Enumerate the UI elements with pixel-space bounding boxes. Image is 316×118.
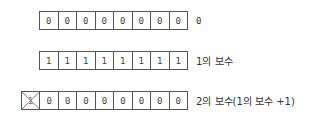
row-zero: 0 0 0 0 0 0 0 0 0 (0, 11, 316, 30)
bit-cell: 1 (114, 52, 133, 69)
bit-cell: 1 (96, 52, 115, 69)
row-label: 0 (196, 11, 201, 30)
row-ones-complement: 1 1 1 1 1 1 1 1 1의 보수 (0, 51, 316, 70)
bit-cell: 0 (170, 12, 189, 29)
bit-cell: 0 (96, 92, 114, 109)
bit-register: 1 0 0 0 0 0 0 0 0 (21, 91, 188, 110)
cross-out-icon (22, 92, 39, 109)
overflow-bit-cell: 1 (22, 92, 40, 109)
bit-cell: 0 (151, 92, 169, 109)
bit-cell: 0 (133, 92, 151, 109)
bit-cell: 0 (77, 12, 96, 29)
bit-cell: 0 (40, 92, 58, 109)
bit-cell: 1 (151, 52, 170, 69)
bit-cell: 0 (59, 12, 78, 29)
bit-cell: 0 (170, 92, 188, 109)
bit-cell: 0 (114, 92, 132, 109)
row-label: 2의 보수(1의 보수 +1) (196, 91, 295, 110)
row-label: 1의 보수 (196, 51, 233, 70)
bit-register: 0 0 0 0 0 0 0 0 (39, 11, 188, 30)
bit-register: 1 1 1 1 1 1 1 1 (39, 51, 188, 70)
bit-cell: 0 (114, 12, 133, 29)
bit-cell: 0 (151, 12, 170, 29)
bit-cell: 1 (170, 52, 189, 69)
bit-cell: 1 (133, 52, 152, 69)
bit-cell: 0 (59, 92, 77, 109)
row-twos-complement: 1 0 0 0 0 0 0 0 0 2의 보수(1의 보수 +1) (0, 91, 316, 110)
bit-cell: 0 (133, 12, 152, 29)
bit-cell: 1 (77, 52, 96, 69)
bit-cell: 1 (59, 52, 78, 69)
bit-cell: 0 (96, 12, 115, 29)
bit-cell: 0 (40, 12, 59, 29)
bit-cell: 0 (77, 92, 95, 109)
bit-cell: 1 (40, 52, 59, 69)
